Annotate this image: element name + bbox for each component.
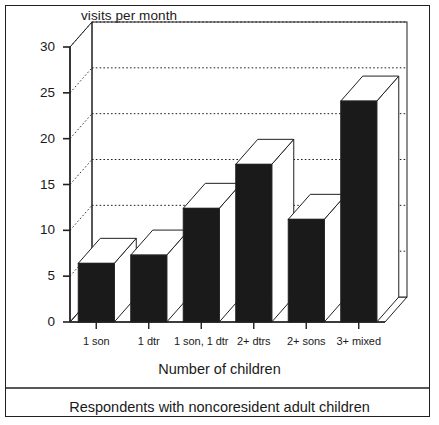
y-tick-label-10: 10	[25, 223, 55, 237]
y-tick-label-20: 20	[25, 132, 55, 146]
x-tick-label-6: 3+ mixed	[319, 336, 399, 347]
bar-6	[341, 76, 399, 322]
y-tick-label-5: 5	[25, 269, 55, 283]
y-tick-label-25: 25	[25, 86, 55, 100]
y-tick-label-15: 15	[25, 178, 55, 192]
x-axis-title: Number of children	[0, 362, 439, 377]
y-tick-label-30: 30	[25, 40, 55, 54]
y-tick-label-0: 0	[25, 315, 55, 329]
figure-container: visits per month 051015202530 1 son1 dtr…	[0, 0, 439, 425]
bar-3	[183, 183, 241, 322]
bar-5	[288, 194, 346, 322]
y-axis-title: visits per month	[81, 9, 177, 23]
figure-caption: Respondents with noncoresident adult chi…	[0, 400, 439, 415]
bar-4	[236, 139, 294, 322]
